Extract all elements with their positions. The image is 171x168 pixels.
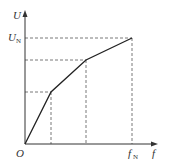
u-f-chart: U O f U N f N xyxy=(0,0,171,168)
u-f-curve xyxy=(25,38,132,144)
y-axis-label: U xyxy=(13,9,22,21)
guide-lines xyxy=(25,38,132,144)
x-axis-arrow-icon xyxy=(151,142,158,147)
x-axis-label: f xyxy=(152,147,157,159)
fn-label-sub: N xyxy=(133,153,138,161)
y-axis-arrow-icon xyxy=(23,10,28,17)
axes xyxy=(25,14,155,144)
origin-label: O xyxy=(16,147,24,159)
un-label-sub: N xyxy=(16,37,21,45)
